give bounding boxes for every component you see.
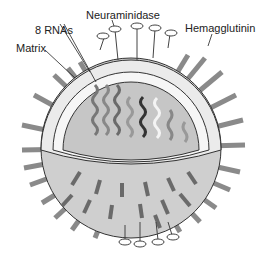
rna-label: 8 RNAs — [35, 24, 73, 36]
matrix-label: Matrix — [16, 42, 46, 54]
virus-diagram — [0, 0, 262, 255]
hemagglutinin-label: Hemagglutinin — [185, 22, 255, 34]
neuraminidase-label: Neuraminidase — [86, 9, 160, 21]
